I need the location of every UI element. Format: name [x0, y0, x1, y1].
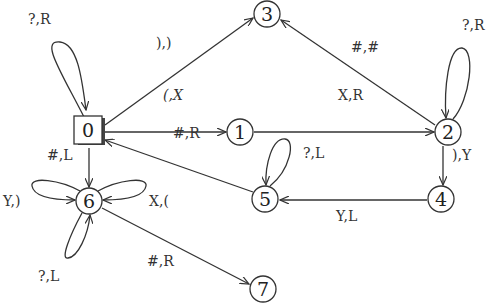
label-2-4: ),Y [452, 147, 472, 163]
label-5-0: #,R [173, 125, 200, 141]
node-1: 1 [227, 119, 253, 145]
edge-6-6-left [32, 180, 80, 200]
node-4: 4 [428, 186, 454, 212]
label-0-1: (,X [163, 87, 184, 103]
edge-5-5 [266, 139, 291, 186]
svg-text:0: 0 [82, 119, 94, 141]
label-0-0: ?,R [28, 11, 51, 27]
svg-text:5: 5 [259, 188, 271, 210]
label-0-6: #,L [47, 147, 72, 163]
label-6-6-left: Y,) [2, 193, 20, 209]
edge-0-0 [52, 42, 86, 117]
node-5: 5 [252, 186, 278, 212]
label-6-6-bottom: ?,L [38, 268, 59, 284]
node-3: 3 [254, 1, 280, 27]
svg-text:3: 3 [261, 3, 273, 25]
label-2-2: ?,R [462, 17, 485, 33]
state-diagram: 0 1 2 3 4 5 6 7 ?,R ),) (,X X,R #,# ?,R … [0, 0, 489, 307]
label-2-3: #,# [351, 39, 379, 55]
svg-text:7: 7 [257, 278, 269, 300]
node-0: 0 [74, 116, 105, 145]
label-0-3: ),) [156, 35, 171, 51]
node-7: 7 [250, 276, 276, 302]
edge-6-6-bottom [65, 213, 90, 258]
label-6-6-right: X,( [149, 193, 169, 209]
edge-6-7 [102, 208, 249, 284]
edge-6-6-right [98, 180, 146, 200]
svg-text:1: 1 [234, 121, 246, 143]
svg-text:4: 4 [435, 188, 447, 210]
label-1-2: X,R [338, 87, 363, 103]
label-4-5: Y,L [335, 208, 357, 224]
svg-text:6: 6 [83, 190, 95, 212]
node-6: 6 [76, 188, 102, 214]
edge-2-3 [281, 20, 435, 125]
edge-5-0 [105, 140, 253, 192]
edge-2-2 [446, 48, 470, 119]
svg-text:2: 2 [442, 121, 454, 143]
edge-0-3 [105, 18, 253, 125]
node-2: 2 [435, 119, 461, 145]
label-6-7: #,R [147, 253, 174, 269]
label-5-5: ?,L [303, 145, 324, 161]
